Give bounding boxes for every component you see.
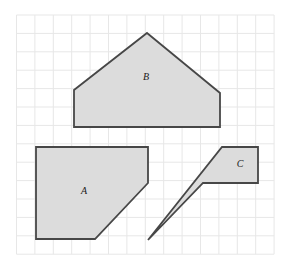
shape-b-label: B bbox=[143, 71, 149, 82]
shapes-diagram: ABC bbox=[0, 0, 292, 273]
shape-c-label: C bbox=[237, 158, 244, 169]
shape-a-label: A bbox=[80, 185, 88, 196]
figure-container: ABC bbox=[0, 0, 292, 273]
